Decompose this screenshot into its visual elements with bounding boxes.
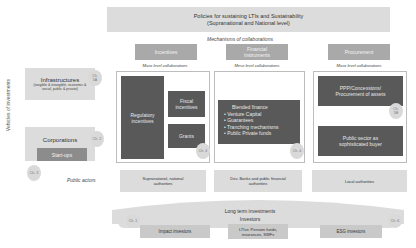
public-sector-buyer-box: Public sector as sophisticated buyer xyxy=(318,126,403,156)
investor-impact: Impact investors xyxy=(140,225,210,238)
chapter-badge-financial: Ch. 4 xyxy=(290,143,304,159)
investors-line2: Investors xyxy=(200,215,300,222)
level-label-procurement: Micro level collaborations xyxy=(314,62,404,69)
fiscal-incentives-box: Fiscal incentives xyxy=(168,91,205,117)
investors-line1: Long term investments xyxy=(200,207,300,214)
ppp-box: PPP/Concessions/ Procurement of assets xyxy=(318,76,403,106)
public-actors-label: Public actors xyxy=(67,177,96,183)
blended-finance-box: Blended finance • Venture Capital • Guar… xyxy=(218,100,300,144)
startups-box: Start-ups xyxy=(37,148,87,161)
policy-line2: (Supranational and National level) xyxy=(207,20,290,27)
header-financial-instruments: Financial instruments xyxy=(226,44,288,60)
chapter-badge-procurement: Ch. 5B xyxy=(389,103,403,119)
header-procurement: Procurement xyxy=(328,44,390,60)
vehicles-label: Vehicles of investments xyxy=(3,65,13,145)
corporations-title: Corporations xyxy=(25,127,95,147)
infrastructures-box: Infrastructures (tangible & intangible, … xyxy=(25,68,95,100)
actor-dev-banks: Dev. Banks and public financial authorit… xyxy=(214,170,302,192)
actor-supranational: Supranational, national authorities xyxy=(120,170,206,192)
chapter-badge-startups: Ch. 3 xyxy=(27,165,41,181)
level-label-financial: Meso level collaborations xyxy=(212,62,302,69)
policy-line1: Policies for sustaining LTIs and Sustain… xyxy=(194,13,304,20)
financial-bullet: • Public Private funds xyxy=(224,130,294,137)
chapter-badge-incentives: Ch. 4 xyxy=(196,143,210,159)
actor-local: Local authorities xyxy=(312,170,407,192)
chapter-badge-investors-left: Ch. 1 xyxy=(126,214,140,228)
header-incentives: Incentives xyxy=(135,44,197,60)
chapter-badge-infrastructures: Ch. 5A xyxy=(88,70,102,86)
investor-esg: ESG investors xyxy=(320,225,382,238)
header-financial-line2: instruments xyxy=(244,52,270,58)
regulatory-incentives-box: Regulatory incentives xyxy=(121,76,164,159)
investor-ltivs: LTIvs: Pension funds, insurances, SWFs xyxy=(228,224,288,239)
mechanisms-label: Mechanisms of collaborations xyxy=(180,35,300,43)
level-label-incentives: Micro level collaborations xyxy=(120,62,210,69)
chapter-badge-corporations: Ch. 2 xyxy=(90,131,104,147)
policy-banner: Policies for sustaining LTIs and Sustain… xyxy=(107,7,390,32)
chapter-badge-investors-right: Ch. 6 xyxy=(388,214,402,228)
infrastructures-subtitle: (tangible & intangible, economic & socia… xyxy=(31,83,89,92)
